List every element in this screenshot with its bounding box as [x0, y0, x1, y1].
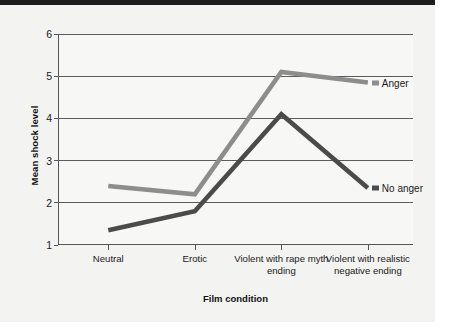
- line-chart-figure: Mean shock level 123456 NeutralEroticVio…: [0, 5, 436, 323]
- scan-edge-right: [435, 0, 453, 328]
- x-tick-label-2: Violent with rape myth ending: [233, 253, 329, 276]
- figure-page: Mean shock level 123456 NeutralEroticVio…: [0, 0, 453, 328]
- plot-area: 123456 NeutralEroticViolent with rape my…: [58, 34, 413, 245]
- y-tick-label-6: 6: [46, 28, 52, 40]
- x-axis-title: Film condition: [58, 293, 413, 304]
- series-swatch-no-anger: [372, 186, 379, 191]
- y-axis-title: Mean shock level: [29, 81, 40, 211]
- series-label-no-anger-text: No anger: [382, 183, 423, 194]
- y-tick-label-4: 4: [46, 112, 52, 124]
- x-tick-mark-3: [368, 245, 369, 250]
- y-tick-label-3: 3: [46, 155, 52, 167]
- y-tick-label-5: 5: [46, 70, 52, 82]
- series-label-no-anger: No anger: [372, 183, 423, 194]
- x-tick-label-0: Neutral: [60, 253, 156, 265]
- y-tick-label-2: 2: [46, 197, 52, 209]
- series-layer: [58, 34, 413, 245]
- x-tick-mark-0: [108, 245, 109, 250]
- x-tick-mark-1: [195, 245, 196, 250]
- x-tick-label-3: Violent with realistic negative ending: [320, 253, 416, 276]
- x-tick-mark-2: [281, 245, 282, 250]
- scan-edge-bottom: [0, 322, 453, 328]
- series-label-anger: Anger: [372, 77, 409, 88]
- y-tick-label-1: 1: [46, 239, 52, 251]
- series-line-anger: [108, 72, 368, 194]
- series-label-anger-text: Anger: [382, 77, 409, 88]
- x-tick-label-1: Erotic: [147, 253, 243, 265]
- series-swatch-anger: [372, 80, 379, 85]
